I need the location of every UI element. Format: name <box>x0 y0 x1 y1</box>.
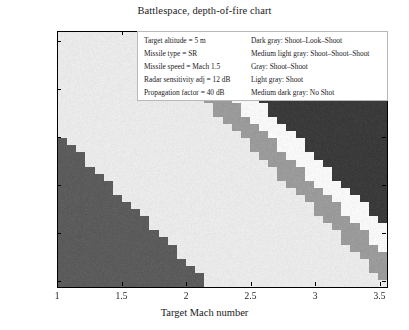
legend-parameters-column: Target altitude = 5 m Missile type = SR … <box>138 36 249 97</box>
legend-key: Medium dark gray: No Shot <box>251 88 387 97</box>
y-tick-mark <box>57 185 61 186</box>
x-tick-label: 2.5 <box>245 291 257 301</box>
y-tick-mark <box>57 41 61 42</box>
y-tick-mark <box>382 281 386 282</box>
chart-figure: Battlespace, depth-of-fire chart Target … <box>0 0 409 330</box>
x-tick-mark <box>186 282 187 286</box>
x-tick-mark <box>57 282 58 286</box>
x-tick-mark <box>380 282 381 286</box>
x-tick-label: 1.5 <box>116 291 128 301</box>
legend-key: Dark gray: Shoot–Look–Shoot <box>251 36 387 45</box>
legend-keys-column: Dark gray: Shoot–Look–Shoot Medium light… <box>249 36 387 97</box>
y-tick-mark <box>57 137 61 138</box>
legend-key: Medium light gray: Shoot–Shoot–Shoot <box>251 49 387 58</box>
x-tick-label: 2 <box>184 291 189 301</box>
x-tick-mark <box>122 31 123 35</box>
y-tick-mark <box>57 233 61 234</box>
x-tick-label: 1 <box>55 291 60 301</box>
x-tick-mark <box>315 282 316 286</box>
page-title: Battlespace, depth-of-fire chart <box>0 5 409 16</box>
legend-parameter: Target altitude = 5 m <box>144 36 249 45</box>
x-tick-mark <box>57 31 58 35</box>
legend-parameter: Radar sensitivity adj = 12 dB <box>144 75 249 84</box>
x-tick-mark <box>122 282 123 286</box>
y-tick-mark <box>382 233 386 234</box>
legend-key: Gray: Shoot–Shoot <box>251 62 387 71</box>
y-tick-mark <box>57 89 61 90</box>
y-tick-mark <box>382 137 386 138</box>
x-axis-title: Target Mach number <box>0 307 409 318</box>
x-tick-label: 3 <box>313 291 318 301</box>
legend-key: Light gray: Shoot <box>251 75 387 84</box>
x-tick-label: 3.5 <box>374 291 386 301</box>
legend-parameter: Missile type = SR <box>144 49 249 58</box>
y-tick-mark <box>382 185 386 186</box>
legend-parameter: Propagation factor = 40 dB <box>144 88 249 97</box>
x-tick-mark <box>251 282 252 286</box>
legend: Target altitude = 5 m Missile type = SR … <box>137 31 388 101</box>
legend-parameter: Missile speed = Mach 1.5 <box>144 62 249 71</box>
